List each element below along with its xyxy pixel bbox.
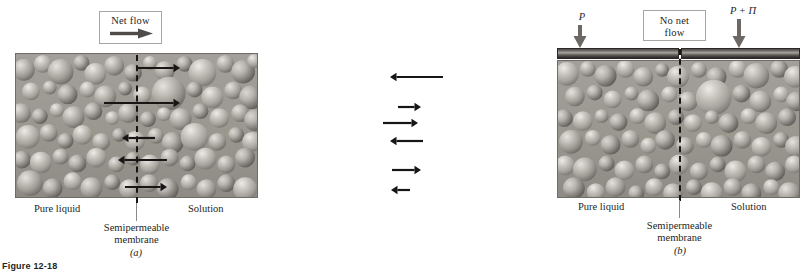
label-semipermeable-membrane-a: Semipermeable membrane: [86, 222, 187, 246]
semipermeable-membrane-line-a: [136, 55, 138, 203]
net-flow-callout-a: Net flow: [99, 11, 162, 44]
label-semipermeable-membrane-b: Semipermeable membrane: [629, 220, 730, 244]
piston-bar-left: [557, 48, 679, 59]
no-net-flow-label: No net flow: [644, 15, 705, 38]
subfigure-label-b: (b): [660, 245, 700, 257]
net-flow-label: Net flow: [100, 15, 161, 27]
panel-b: No net flow P P + Π: [270, 0, 541, 270]
subfigure-label-a: (a): [116, 247, 156, 259]
semipermeable-membrane-line-b: [679, 49, 681, 201]
figure-number: Figure 12-18: [2, 261, 57, 271]
membrane-leader-b: [679, 200, 680, 218]
label-solution-a: Solution: [188, 203, 224, 215]
no-net-flow-callout-b: No net flow: [643, 10, 706, 41]
piston-bar-right: [681, 48, 800, 59]
label-solution-b: Solution: [731, 201, 767, 213]
net-flow-arrow-icon: [100, 28, 161, 39]
label-pure-liquid-b: Pure liquid: [578, 201, 624, 213]
panel-a: Net flow: [0, 0, 271, 270]
label-pure-liquid-a: Pure liquid: [34, 203, 80, 215]
membrane-leader-a: [136, 203, 137, 221]
pressure-label-p-plus-pi: P + Π: [713, 5, 773, 16]
pressure-label-p: P: [562, 11, 602, 22]
